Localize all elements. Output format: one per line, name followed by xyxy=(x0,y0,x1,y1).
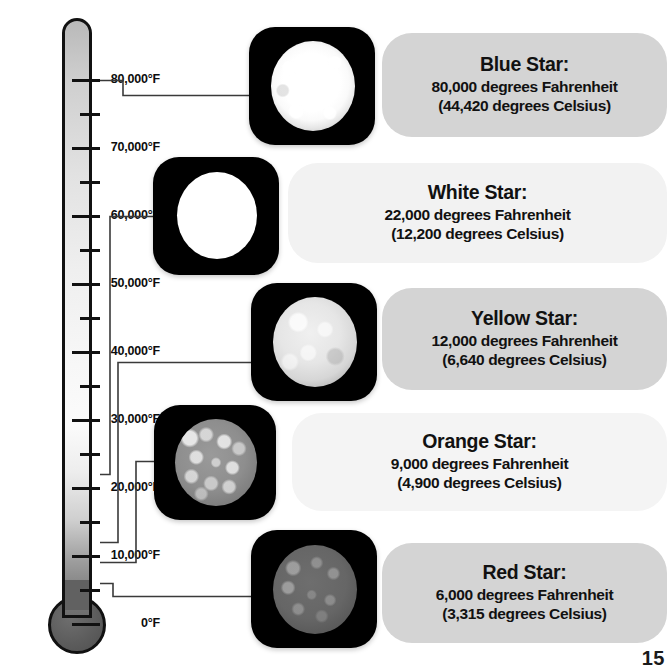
tick-minor-15000 xyxy=(80,521,100,524)
star-disc-orange xyxy=(175,419,257,506)
star-name-red: Red Star: xyxy=(483,561,567,584)
tick-minor-65000 xyxy=(80,181,100,184)
star-disc-white xyxy=(177,172,257,259)
info-panel-red: Red Star: 6,000 degrees Fahrenheit (3,31… xyxy=(382,543,667,643)
star-disc-yellow xyxy=(273,297,357,387)
star-celsius-red: (3,315 degrees Celsius) xyxy=(442,605,606,624)
tick-major-60000 xyxy=(72,215,100,218)
star-fahrenheit-orange: 9,000 degrees Fahrenheit xyxy=(391,455,569,474)
star-fahrenheit-red: 6,000 degrees Fahrenheit xyxy=(436,586,614,605)
page-number: 15 xyxy=(642,647,665,670)
star-texture-blue xyxy=(271,41,355,131)
thermometer-bulb-neck xyxy=(62,580,92,610)
star-name-white: White Star: xyxy=(428,181,528,204)
star-thumbnail-red[interactable] xyxy=(251,530,377,648)
tick-major-10000 xyxy=(72,555,100,558)
infographic-page: . 80,000°F 70,000°F 60,000°F 50,000°F 40… xyxy=(0,0,669,670)
tick-major-80000 xyxy=(72,79,100,82)
star-celsius-white: (12,200 degrees Celsius) xyxy=(391,225,564,244)
tick-minor-55000 xyxy=(80,249,100,252)
tick-major-0 xyxy=(72,623,100,626)
tick-major-20000 xyxy=(72,487,100,490)
star-disc-red xyxy=(273,545,357,634)
info-panel-white: White Star: 22,000 degrees Fahrenheit (1… xyxy=(288,163,667,263)
info-panel-yellow: Yellow Star: 12,000 degrees Fahrenheit (… xyxy=(382,288,667,390)
star-texture-orange xyxy=(175,419,257,506)
tick-minor-45000 xyxy=(80,317,100,320)
star-thumbnail-white[interactable] xyxy=(153,157,279,275)
tick-minor-5000 xyxy=(80,589,100,592)
star-celsius-orange: (4,900 degrees Celsius) xyxy=(397,474,561,493)
tick-minor-35000 xyxy=(80,385,100,388)
star-fahrenheit-yellow: 12,000 degrees Fahrenheit xyxy=(432,332,618,351)
star-disc-blue xyxy=(271,41,355,131)
star-name-yellow: Yellow Star: xyxy=(471,307,578,330)
star-texture-red xyxy=(273,545,357,634)
star-celsius-yellow: (6,640 degrees Celsius) xyxy=(442,351,606,370)
tick-major-50000 xyxy=(72,283,100,286)
info-panel-orange: Orange Star: 9,000 degrees Fahrenheit (4… xyxy=(292,413,667,511)
star-celsius-blue: (44,420 degrees Celsius) xyxy=(438,97,611,116)
tick-minor-75000 xyxy=(80,113,100,116)
star-texture-yellow xyxy=(273,297,357,387)
tick-major-40000 xyxy=(72,351,100,354)
thermometer-scale: 80,000°F 70,000°F 60,000°F 50,000°F 40,0… xyxy=(0,0,160,670)
tick-major-30000 xyxy=(72,419,100,422)
star-fahrenheit-blue: 80,000 degrees Fahrenheit xyxy=(432,78,618,97)
star-name-blue: Blue Star: xyxy=(480,53,569,76)
star-thumbnail-orange[interactable] xyxy=(154,405,276,520)
star-thumbnail-blue[interactable] xyxy=(249,27,375,145)
star-fahrenheit-white: 22,000 degrees Fahrenheit xyxy=(385,206,571,225)
tick-major-70000 xyxy=(72,147,100,150)
star-thumbnail-yellow[interactable] xyxy=(251,283,377,401)
info-panel-blue: Blue Star: 80,000 degrees Fahrenheit (44… xyxy=(382,33,667,137)
tick-minor-25000 xyxy=(80,453,100,456)
star-name-orange: Orange Star: xyxy=(422,430,537,453)
